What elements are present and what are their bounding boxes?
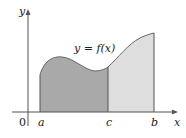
y-axis-arrow-icon — [26, 9, 31, 15]
tick-label-c: c — [106, 116, 112, 129]
tick-label-b: b — [151, 116, 158, 129]
y-axis-label: y — [18, 5, 26, 18]
tick-label-a: a — [38, 116, 45, 129]
area-under-curve-diagram: y x 0 a c b y = f(x) — [0, 0, 186, 138]
region-a-to-c — [40, 57, 108, 112]
origin-label: 0 — [19, 116, 26, 129]
x-axis-arrow-icon — [172, 110, 178, 115]
curve-label: y = f(x) — [73, 42, 115, 55]
x-axis-label: x — [174, 116, 181, 129]
